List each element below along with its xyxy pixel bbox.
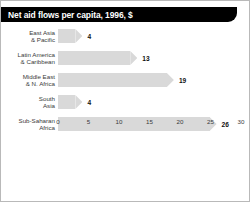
- x-axis-tick-label: 5: [87, 118, 90, 125]
- chart-card: Net aid flows per capita, 1996, $ East A…: [0, 0, 250, 202]
- bar-value-label: 13: [142, 55, 149, 62]
- bar-track: 4: [58, 29, 241, 43]
- bar-category-label: East Asia & Pacific: [5, 29, 55, 43]
- bar-value-label: 19: [179, 77, 186, 84]
- bar-track: 13: [58, 51, 241, 65]
- bar-value-label: 4: [87, 99, 91, 106]
- bar-category-label: Latin America & Caribbean: [5, 51, 55, 65]
- bar-arrow-head-icon: [130, 51, 137, 65]
- title-bar: Net aid flows per capita, 1996, $: [1, 7, 237, 22]
- bar: [58, 73, 167, 87]
- bar-track: 19: [58, 73, 241, 87]
- bar-arrow-head-icon: [167, 73, 174, 87]
- bar-track: 4: [58, 95, 241, 109]
- bar-category-label: South Asia: [5, 95, 55, 109]
- chart-bar-row: East Asia & Pacific4: [1, 29, 250, 43]
- x-axis-tick-label: 25: [207, 118, 214, 125]
- page-title: Net aid flows per capita, 1996, $: [8, 10, 133, 20]
- bar: [58, 29, 75, 43]
- chart-bar-row: South Asia4: [1, 95, 250, 109]
- x-axis-tick-label: 30: [238, 118, 245, 125]
- chart-bar-row: Middle East & N. Africa19: [1, 73, 250, 87]
- x-axis-tick-label: 20: [177, 118, 184, 125]
- x-axis-tick-label: 10: [116, 118, 123, 125]
- bar: [58, 95, 75, 109]
- bar-value-label: 4: [87, 33, 91, 40]
- bar-category-label: Sub-Saharan Africa: [5, 117, 55, 131]
- chart-plot-area: East Asia & Pacific4Latin America & Cari…: [1, 26, 250, 156]
- chart-bar-row: Latin America & Caribbean13: [1, 51, 250, 65]
- bar-category-label: Middle East & N. Africa: [5, 73, 55, 87]
- bar: [58, 51, 130, 65]
- x-axis: 051015202530: [58, 118, 241, 130]
- bar-arrow-head-icon: [75, 29, 82, 43]
- bar-arrow-head-icon: [75, 95, 82, 109]
- x-axis-tick-label: 15: [146, 118, 153, 125]
- x-axis-tick-label: 0: [56, 118, 59, 125]
